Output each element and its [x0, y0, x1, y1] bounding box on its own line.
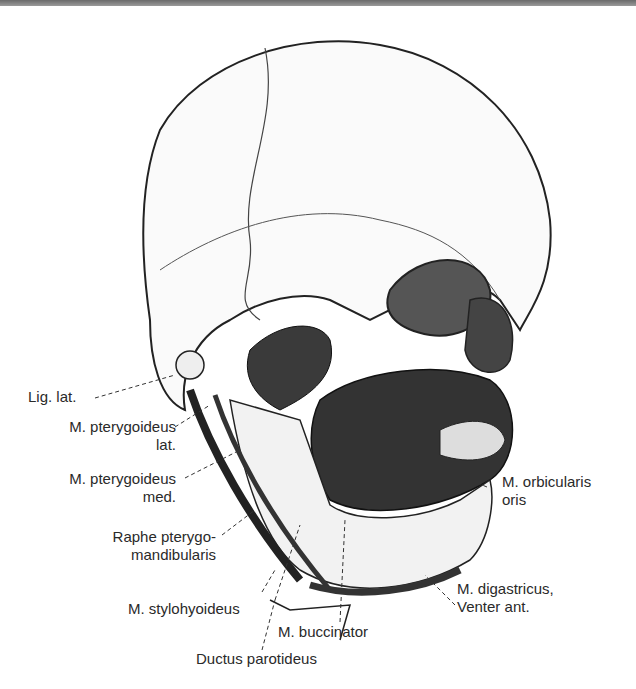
label-orbicularis-oris: M. orbicularis oris	[502, 473, 591, 509]
label-raphe-pterygomandibularis: Raphe pterygo- mandibularis	[70, 528, 216, 564]
label-pterygoideus-med: M. pterygoideus med.	[38, 470, 176, 506]
label-digastricus: M. digastricus, Venter ant.	[457, 580, 554, 616]
label-stylohyoideus: M. stylohyoideus	[128, 600, 240, 618]
label-pterygoideus-lat: M. pterygoideus lat.	[38, 418, 176, 454]
label-ductus-parotideus: Ductus parotideus	[196, 650, 317, 668]
label-buccinator: M. buccinator	[278, 623, 368, 641]
label-lig-lat: Lig. lat.	[28, 388, 76, 406]
